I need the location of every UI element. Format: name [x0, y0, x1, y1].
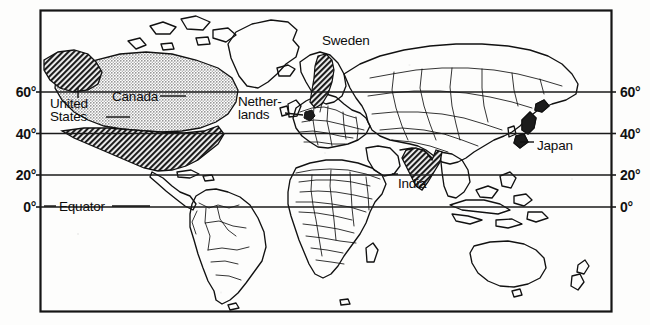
label-japan: Japan: [537, 139, 573, 152]
latitude-label-left-40: 40°: [0, 126, 36, 142]
label-canada: Canada: [112, 90, 158, 103]
label-netherlands-line2: lands: [238, 108, 282, 121]
latitude-label-left-20: 20°: [0, 167, 36, 183]
latitude-label-left-0: 0°: [0, 199, 36, 215]
world-map-figure: 60° 40° 20° 0° 60° 40° 20° 0° Equator Un…: [0, 0, 650, 325]
label-united-states-line2: States: [50, 110, 88, 123]
latitude-label-right-20: 20°: [620, 167, 640, 183]
country-sweden-fill: [310, 54, 334, 108]
label-united-states: United States: [50, 97, 88, 123]
latitude-label-left-60: 60°: [0, 84, 36, 100]
label-netherlands: Nether- lands: [238, 95, 282, 121]
equator-label: Equator: [59, 199, 105, 214]
latitude-label-right-40: 40°: [620, 126, 640, 142]
latitude-label-right-0: 0°: [620, 199, 633, 215]
label-india: India: [398, 177, 426, 190]
label-sweden: Sweden: [322, 34, 370, 47]
latitude-label-right-60: 60°: [620, 84, 640, 100]
world-map-canvas: [0, 0, 650, 325]
